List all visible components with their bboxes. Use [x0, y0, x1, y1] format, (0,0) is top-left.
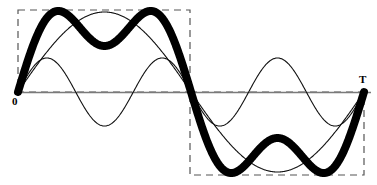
- period-label: T: [359, 74, 366, 85]
- origin-label: 0: [12, 96, 18, 107]
- waveform-plot: [0, 0, 377, 185]
- figure-canvas: 0 T: [0, 0, 377, 185]
